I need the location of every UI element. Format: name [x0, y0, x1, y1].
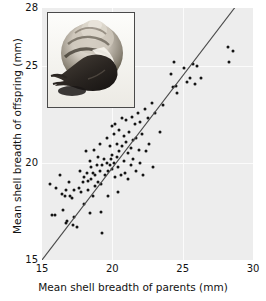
x-axis-tick-label: 20 — [95, 264, 129, 274]
x-axis-label: Mean shell breadth of parents (mm) — [0, 281, 266, 293]
y-axis-tick-label: 28 — [10, 3, 38, 13]
x-axis-tick-label: 15 — [25, 264, 59, 274]
snail-inset-image — [47, 12, 135, 108]
x-axis-tick-label: 30 — [236, 264, 266, 274]
scatter-plot-figure: 15202528 15202530 Mean shell breadth of … — [0, 0, 266, 301]
y-axis-label: Mean shell breadth of offspring (mm) — [11, 16, 23, 256]
x-axis-ticks: 15202530 — [0, 264, 266, 278]
snail-illustration — [48, 13, 134, 107]
x-axis-tick-label: 25 — [166, 264, 200, 274]
